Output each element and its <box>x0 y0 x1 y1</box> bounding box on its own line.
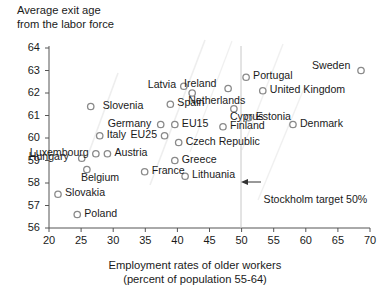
data-point-label: Lithuania <box>192 168 235 180</box>
data-point-label: Estonia <box>256 110 291 122</box>
scatter-chart: Average exit age from the labor force 56… <box>0 0 390 299</box>
data-point-marker <box>88 103 94 109</box>
x-tick-label: 45 <box>195 234 225 246</box>
data-point-label: Belgium <box>81 171 119 183</box>
data-point-label: Poland <box>84 207 117 219</box>
data-point-marker <box>167 101 173 107</box>
y-axis-ticks <box>45 48 49 228</box>
stockholm-target-label: Stockholm target 50% <box>264 193 368 205</box>
data-point-marker <box>141 169 147 175</box>
data-point-label: Sweden <box>312 59 350 71</box>
data-point-label: Czech Republic <box>186 135 260 147</box>
x-tick-label: 20 <box>34 234 64 246</box>
data-point-marker <box>243 74 249 80</box>
y-tick-label: 58 <box>16 176 40 188</box>
x-axis-ticks <box>49 228 370 232</box>
data-point-label: Italy <box>107 128 126 140</box>
data-point-label: Hungary <box>29 150 69 162</box>
data-point-marker <box>260 88 266 94</box>
y-tick-label: 61 <box>16 109 40 121</box>
data-point-marker <box>158 121 164 127</box>
y-tick-label: 57 <box>16 199 40 211</box>
x-tick-label: 30 <box>98 234 128 246</box>
data-point-label: Portugal <box>253 69 292 81</box>
y-tick-label: 63 <box>16 64 40 76</box>
data-point-label: Slovenia <box>103 99 144 111</box>
data-point-label: Denmark <box>300 117 343 129</box>
y-tick-label: 60 <box>16 131 40 143</box>
y-tick-label: 62 <box>16 86 40 98</box>
data-point-label: Greece <box>182 153 217 165</box>
data-point-marker <box>93 151 99 157</box>
x-axis-title: Employment rates of older workers (perce… <box>0 258 390 286</box>
data-point-marker <box>220 124 226 130</box>
stockholm-target-arrow <box>241 179 261 185</box>
x-tick-label: 50 <box>227 234 257 246</box>
data-point-marker <box>175 139 181 145</box>
data-point-marker <box>225 85 231 91</box>
x-tick-label: 65 <box>323 234 353 246</box>
data-point-label: EU25 <box>131 128 158 140</box>
y-tick-label: 56 <box>16 221 40 233</box>
data-point-label: EU15 <box>182 117 209 129</box>
x-tick-label: 40 <box>162 234 192 246</box>
data-point-label: Slovakia <box>65 186 105 198</box>
data-point-marker <box>358 67 364 73</box>
data-point-marker <box>97 133 103 139</box>
data-point-marker <box>74 211 80 217</box>
data-point-marker <box>161 133 167 139</box>
data-point-marker <box>104 151 110 157</box>
data-point-marker <box>172 121 178 127</box>
data-point-marker <box>55 191 61 197</box>
data-point-label: United Kingdom <box>270 83 345 95</box>
data-point-label: Austria <box>114 146 147 158</box>
x-tick-label: 35 <box>130 234 160 246</box>
data-point-label: Latvia <box>148 78 176 90</box>
data-point-label: France <box>152 164 185 176</box>
data-point-marker <box>172 157 178 163</box>
x-tick-label: 55 <box>259 234 289 246</box>
x-axis-title-line1: Employment rates of older workers <box>109 259 282 271</box>
data-point-label: Netherlands <box>188 94 245 106</box>
data-point-label: Ireland <box>184 77 216 89</box>
y-tick-label: 64 <box>16 41 40 53</box>
x-tick-label: 60 <box>291 234 321 246</box>
data-point-marker <box>290 121 296 127</box>
x-tick-label: 70 <box>355 234 385 246</box>
x-axis-title-line2: (percent of population 55-64) <box>0 272 390 286</box>
x-tick-label: 25 <box>66 234 96 246</box>
data-point-label: Germany <box>108 117 152 129</box>
